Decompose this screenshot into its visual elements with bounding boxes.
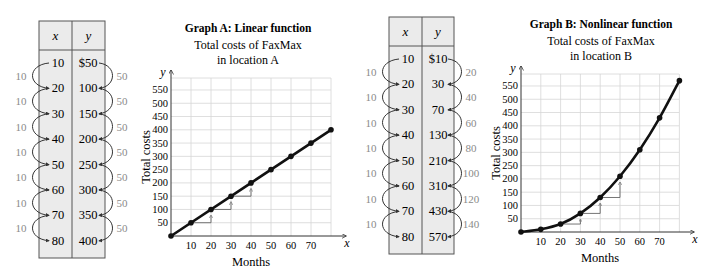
cell-y: 150 <box>79 107 98 121</box>
cell-y: $50 <box>79 56 98 70</box>
header-x: x <box>402 24 409 39</box>
x-diff-label: 10 <box>16 70 28 82</box>
data-point <box>677 78 683 84</box>
cell-x: 20 <box>402 77 415 91</box>
y-tick-label: 300 <box>502 147 518 158</box>
data-point <box>328 127 334 133</box>
graph-a: Graph A: Linear functionTotal costs of F… <box>139 22 350 269</box>
cell-y: 300 <box>79 183 98 197</box>
y-tick-label: 500 <box>502 94 518 105</box>
y-diff-label: 60 <box>466 117 478 129</box>
graph-subtitle-line1: Total costs of FaxMax <box>547 34 654 48</box>
y-tick-label: 350 <box>502 134 518 145</box>
x-diff-label: 10 <box>16 171 28 183</box>
y-tick-label: 500 <box>152 98 168 109</box>
cell-y: 430 <box>429 204 448 218</box>
header-x: x <box>52 28 59 43</box>
cell-x: 50 <box>52 158 65 172</box>
x-diff-label: 10 <box>16 146 28 158</box>
y-axis-label: Total costs <box>139 130 153 184</box>
y-diff-label: 50 <box>117 222 129 234</box>
y-tick-label: 100 <box>152 204 168 215</box>
x-tick-label: 40 <box>595 236 606 247</box>
y-diff-label: 50 <box>117 171 129 183</box>
data-point <box>168 233 174 239</box>
x-diff-label: 10 <box>366 193 378 205</box>
x-diff-label: 10 <box>366 142 378 154</box>
data-point <box>268 167 274 173</box>
data-point <box>538 227 544 233</box>
data-point <box>558 221 564 227</box>
cell-x: 60 <box>402 179 415 193</box>
y-tick-label: 100 <box>502 200 518 211</box>
y-tick-label: 200 <box>152 177 168 188</box>
x-tick-label: 50 <box>266 240 277 251</box>
cell-y: 310 <box>429 179 448 193</box>
cell-y: 30 <box>432 77 445 91</box>
data-point <box>518 229 524 235</box>
cell-x: 40 <box>52 132 65 146</box>
cell-y: 70 <box>432 103 445 117</box>
graph-title: Graph B: Nonlinear function <box>530 18 673 31</box>
y-diff-label: 50 <box>117 146 129 158</box>
x-tick-label: 10 <box>186 240 197 251</box>
cell-y: 250 <box>79 158 98 172</box>
y-tick-label: 550 <box>502 80 518 91</box>
graph-subtitle-line2: in location B <box>570 49 632 63</box>
graph-subtitle-line2: in location A <box>217 53 279 67</box>
cell-x: 20 <box>52 81 65 95</box>
x-tick-label: 40 <box>246 240 257 251</box>
x-diff-label: 10 <box>366 117 378 129</box>
cell-y: 350 <box>79 208 98 222</box>
x-diff-label: 10 <box>16 95 28 107</box>
cell-y: 100 <box>79 81 98 95</box>
cell-y: 210 <box>429 154 448 168</box>
x-tick-label: 60 <box>635 236 646 247</box>
cell-x: 80 <box>52 234 65 248</box>
y-diff-label: 50 <box>117 197 129 209</box>
y-diff-label: 120 <box>463 193 480 205</box>
y-axis-letter: y <box>159 65 166 79</box>
y-tick-label: 50 <box>158 217 169 228</box>
y-tick-label: 250 <box>152 164 168 175</box>
x-diff-label: 10 <box>366 66 378 78</box>
x-tick-label: 20 <box>206 240 217 251</box>
x-diff-label: 10 <box>16 121 28 133</box>
header-y: y <box>84 28 92 43</box>
data-point <box>617 173 623 179</box>
x-diff-label: 10 <box>16 222 28 234</box>
x-tick-label: 30 <box>575 236 586 247</box>
y-tick-label: 450 <box>502 107 518 118</box>
data-point <box>208 207 214 213</box>
grid <box>171 78 331 236</box>
y-diff-label: 140 <box>463 218 480 230</box>
cell-x: 10 <box>402 52 415 66</box>
table-b: xy10$10203030704013050210603107043080570… <box>366 17 480 254</box>
x-axis-label: Months <box>232 255 270 269</box>
graph-b: Graph B: Nonlinear functionTotal costs o… <box>489 18 698 265</box>
y-diff-label: 100 <box>463 167 480 179</box>
y-tick-label: 150 <box>152 191 168 202</box>
data-point <box>657 115 663 121</box>
y-diff-label: 50 <box>117 121 129 133</box>
data-point <box>288 154 294 160</box>
y-tick-label: 450 <box>152 111 168 122</box>
cell-x: 40 <box>402 128 415 142</box>
x-diff-label: 10 <box>16 197 28 209</box>
y-diff-label: 50 <box>117 95 129 107</box>
x-axis-letter: x <box>343 236 350 250</box>
cell-x: 80 <box>402 230 415 244</box>
y-tick-label: 200 <box>502 173 518 184</box>
data-point <box>228 193 234 199</box>
cell-x: 10 <box>52 56 65 70</box>
cell-x: 60 <box>52 183 65 197</box>
x-axis-letter: x <box>691 232 698 246</box>
table-a: xy10$50201003015040200502506030070350804… <box>16 21 129 258</box>
y-tick-label: 400 <box>502 120 518 131</box>
y-diff-label: 40 <box>466 91 478 103</box>
data-point <box>308 140 314 146</box>
x-diff-label: 10 <box>366 167 378 179</box>
cell-y: 570 <box>429 230 448 244</box>
cell-y: $10 <box>429 52 448 66</box>
cell-x: 70 <box>52 208 65 222</box>
